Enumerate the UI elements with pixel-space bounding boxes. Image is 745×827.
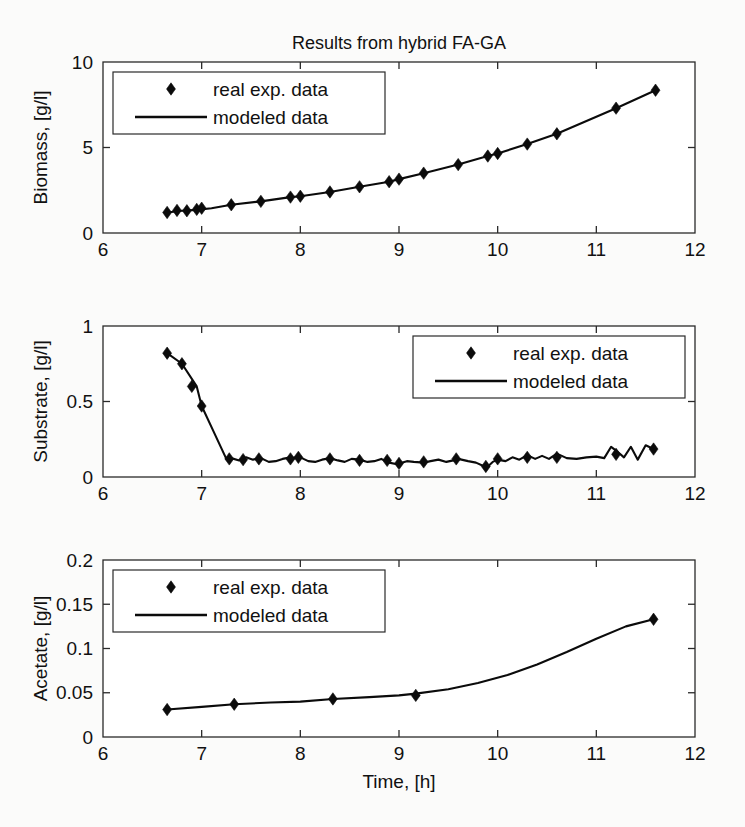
- ytick-label-biomass-1: 5: [82, 137, 93, 158]
- ytick-label-acetate-4: 0.2: [67, 550, 93, 571]
- legend-label-modeled-data: modeled data: [513, 371, 629, 392]
- ytick-label-biomass-2: 10: [72, 52, 93, 73]
- legend-label-real-exp-data: real exp. data: [513, 343, 629, 364]
- xtick-label-substrate-2: 8: [295, 483, 306, 504]
- legend-label-real-exp-data: real exp. data: [213, 79, 329, 100]
- ytick-label-substrate-0: 0: [82, 467, 93, 488]
- xtick-label-acetate-4: 10: [487, 743, 508, 764]
- ylabel-biomass: Biomass, [g/l]: [30, 90, 51, 204]
- legend-label-modeled-data: modeled data: [213, 107, 329, 128]
- legend-biomass: real exp. datamodeled data: [113, 72, 385, 134]
- xtick-label-acetate-0: 6: [98, 743, 109, 764]
- xtick-label-acetate-6: 12: [684, 743, 705, 764]
- xtick-label-substrate-1: 7: [196, 483, 207, 504]
- ytick-label-substrate-2: 1: [82, 316, 93, 337]
- xtick-label-biomass-6: 12: [684, 239, 705, 260]
- legend-acetate: real exp. datamodeled data: [113, 570, 385, 632]
- ytick-label-biomass-0: 0: [82, 223, 93, 244]
- xtick-label-acetate-5: 11: [586, 743, 606, 764]
- ytick-label-substrate-1: 0.5: [67, 391, 93, 412]
- xtick-label-acetate-1: 7: [196, 743, 207, 764]
- legend-label-real-exp-data: real exp. data: [213, 577, 329, 598]
- ytick-label-acetate-1: 0.05: [56, 682, 93, 703]
- ylabel-substrate: Substrate, [g/l]: [30, 340, 51, 463]
- xtick-label-substrate-4: 10: [487, 483, 508, 504]
- legend-label-modeled-data: modeled data: [213, 605, 329, 626]
- xtick-label-biomass-4: 10: [487, 239, 508, 260]
- legend-substrate: real exp. datamodeled data: [413, 336, 685, 398]
- xtick-label-biomass-0: 6: [98, 239, 109, 260]
- xtick-label-acetate-2: 8: [295, 743, 306, 764]
- xtick-label-biomass-3: 9: [394, 239, 405, 260]
- xtick-label-substrate-6: 12: [684, 483, 705, 504]
- subplot-group: 67891011120510Biomass, [g/l]Results from…: [30, 33, 706, 792]
- ytick-label-acetate-0: 0: [82, 727, 93, 748]
- ytick-label-acetate-2: 0.1: [67, 638, 93, 659]
- figure-container: 67891011120510Biomass, [g/l]Results from…: [0, 0, 745, 827]
- ylabel-acetate: Acetate, [g/l]: [30, 596, 51, 702]
- xtick-label-biomass-2: 8: [295, 239, 306, 260]
- ytick-label-acetate-3: 0.15: [56, 594, 93, 615]
- chart-canvas: 67891011120510Biomass, [g/l]Results from…: [0, 0, 745, 827]
- xtick-label-substrate-0: 6: [98, 483, 109, 504]
- xtick-label-substrate-5: 11: [586, 483, 606, 504]
- subplot-biomass: 67891011120510Biomass, [g/l]Results from…: [30, 33, 706, 260]
- subplot-substrate: 678910111200.51Substrate, [g/l]real exp.…: [30, 316, 706, 505]
- xtick-label-biomass-1: 7: [196, 239, 207, 260]
- xtick-label-biomass-5: 11: [586, 239, 606, 260]
- xtick-label-acetate-3: 9: [394, 743, 405, 764]
- xtick-label-substrate-3: 9: [394, 483, 405, 504]
- plot-title: Results from hybrid FA-GA: [292, 33, 506, 53]
- xlabel-acetate: Time, [h]: [362, 771, 435, 792]
